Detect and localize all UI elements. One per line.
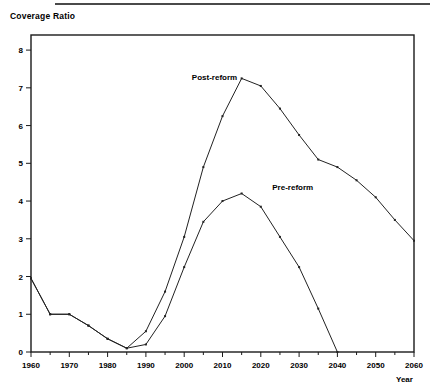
series-marker-post-reform-17 [356,179,358,181]
x-tick-label-1960: 1960 [22,361,40,370]
series-marker-post-reform-7 [164,291,166,293]
series-marker-post-reform-12 [260,85,262,87]
y-tick-label-6: 6 [19,122,24,131]
series-marker-pre-reform-8 [183,266,185,268]
x-tick-label-2060: 2060 [405,361,423,370]
series-marker-pre-reform-1 [49,313,51,315]
line-chart-plot: 0123456781960197019801990200020102020203… [0,0,435,392]
x-tick-label-1990: 1990 [137,361,155,370]
y-tick-label-0: 0 [19,348,24,357]
x-tick-label-2030: 2030 [290,361,308,370]
x-tick-label-2020: 2020 [252,361,270,370]
series-marker-pre-reform-16 [336,351,338,353]
y-tick-label-5: 5 [19,159,24,168]
series-marker-post-reform-9 [202,166,204,168]
series-marker-post-reform-15 [317,159,319,161]
series-marker-post-reform-10 [222,115,224,117]
series-marker-post-reform-13 [279,108,281,110]
series-marker-post-reform-8 [183,236,185,238]
series-marker-pre-reform-3 [87,325,89,327]
series-marker-pre-reform-6 [145,343,147,345]
series-marker-post-reform-18 [375,196,377,198]
series-annotation-pre-reform: Pre-reform [272,183,313,192]
series-marker-pre-reform-9 [202,221,204,223]
series-marker-post-reform-6 [145,330,147,332]
series-marker-pre-reform-14 [298,266,300,268]
series-marker-post-reform-14 [298,134,300,136]
y-tick-label-8: 8 [19,46,24,55]
x-tick-label-1980: 1980 [99,361,117,370]
series-marker-pre-reform-4 [107,338,109,340]
y-tick-label-1: 1 [19,310,24,319]
series-marker-post-reform-11 [241,77,243,79]
series-marker-pre-reform-10 [222,200,224,202]
y-tick-label-7: 7 [19,84,24,93]
series-marker-post-reform-20 [413,240,415,242]
y-tick-label-2: 2 [19,273,24,282]
x-tick-label-2040: 2040 [329,361,347,370]
series-marker-pre-reform-13 [279,236,281,238]
series-line-post-reform [31,78,414,348]
plot-frame [31,35,414,352]
x-tick-label-2000: 2000 [175,361,193,370]
x-tick-label-2010: 2010 [214,361,232,370]
series-marker-pre-reform-5 [126,347,128,349]
x-tick-label-2050: 2050 [367,361,385,370]
chart-figure: Coverage Ratio Year 01234567819601970198… [0,0,435,392]
series-marker-post-reform-16 [336,166,338,168]
series-line-pre-reform [31,194,337,353]
series-marker-pre-reform-0 [30,277,32,279]
series-marker-pre-reform-12 [260,206,262,208]
series-marker-pre-reform-2 [68,313,70,315]
series-marker-post-reform-19 [394,219,396,221]
series-marker-pre-reform-7 [164,315,166,317]
x-tick-label-1970: 1970 [60,361,78,370]
series-annotation-post-reform: Post-reform [192,73,237,82]
y-tick-label-4: 4 [19,197,24,206]
series-marker-pre-reform-11 [241,193,243,195]
y-tick-label-3: 3 [19,235,24,244]
series-marker-pre-reform-15 [317,308,319,310]
